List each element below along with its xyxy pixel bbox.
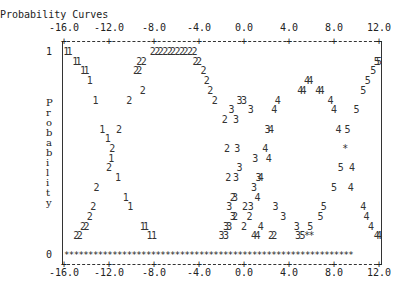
point-series-4: 4 [349, 163, 355, 173]
point-series-5: 5 [344, 125, 350, 135]
x-tick-mark: + [376, 259, 382, 270]
top-x-tick-label: 12.0 [367, 22, 391, 33]
point-series-2: 2 [109, 144, 115, 154]
point-series-5: 5 [370, 66, 376, 76]
top-x-tick-label: -4.0 [187, 22, 211, 33]
x-tick-mark: + [61, 259, 67, 270]
x-tick-mark: + [151, 259, 157, 270]
point-series-3: 3 [272, 202, 278, 212]
x-tick-mark: + [331, 259, 337, 270]
point-series-2: 2 [224, 144, 230, 154]
point-series-4: 4 [268, 125, 274, 135]
point-series-4: 4 [271, 105, 277, 115]
point-series-2: 2 [271, 231, 277, 241]
x-tick-mark: + [331, 36, 337, 47]
top-x-tick-label: 4.0 [280, 22, 298, 33]
point-series-4: 4 [254, 231, 260, 241]
point-series-2: 2 [106, 163, 112, 173]
top-x-tick-label: -8.0 [142, 22, 166, 33]
point-series-4: 4 [331, 105, 337, 115]
point-series-1: 1 [151, 231, 157, 241]
y-tick-0: 0 [46, 249, 52, 260]
x-tick-mark: + [196, 259, 202, 270]
top-x-tick-label: -12.0 [94, 22, 124, 33]
top-x-tick-label: 0.0 [235, 22, 253, 33]
top-x-tick-label: 8.0 [325, 22, 343, 33]
point-series-3: 3 [248, 105, 254, 115]
point-series-5: 5 [353, 105, 359, 115]
point-series-5: 5 [331, 183, 337, 193]
x-tick-mark: + [241, 259, 247, 270]
point-series-overlap: * [308, 231, 314, 241]
point-series-4: 4 [376, 231, 382, 241]
x-tick-mark: + [151, 36, 157, 47]
point-series-3: 3 [241, 96, 247, 106]
point-series-2: 2 [140, 86, 146, 96]
x-tick-mark: + [286, 259, 292, 270]
point-series-5: 5 [360, 86, 366, 96]
point-series-3: 3 [223, 222, 229, 232]
point-series-3: 3 [232, 193, 238, 203]
point-series-2: 2 [247, 212, 253, 222]
point-series-5: 5 [317, 212, 323, 222]
point-series-2: 2 [126, 96, 132, 106]
point-series-1: 1 [115, 173, 121, 183]
point-series-4: 4 [335, 125, 341, 135]
x-tick-mark: + [196, 36, 202, 47]
point-series-4: 4 [266, 154, 272, 164]
point-series-2: 2 [116, 125, 122, 135]
point-series-5: 5 [376, 57, 382, 67]
point-series-3: 3 [226, 202, 232, 212]
x-tick-mark: + [106, 36, 112, 47]
point-series-2: 2 [222, 115, 228, 125]
x-tick-mark: + [376, 36, 382, 47]
point-series-5: 5 [338, 163, 344, 173]
point-series-3: 3 [218, 231, 224, 241]
point-series-2: 2 [73, 231, 79, 241]
x-tick-mark: + [106, 259, 112, 270]
point-series-4: 4 [258, 173, 264, 183]
point-series-4: 4 [307, 76, 313, 86]
point-series-3: 3 [252, 154, 258, 164]
point-series-4: 4 [301, 86, 307, 96]
y-axis-label-char: y [46, 197, 52, 208]
point-series-3: 3 [234, 144, 240, 154]
point-series-3: 3 [280, 212, 286, 222]
point-series-overlap: * [342, 144, 348, 154]
point-series-4: 4 [348, 183, 354, 193]
point-series-4: 4 [319, 86, 325, 96]
point-series-3: 3 [248, 202, 254, 212]
point-series-1: 1 [127, 202, 133, 212]
point-series-3: 3 [233, 115, 239, 125]
top-x-tick-label: -16.0 [49, 22, 79, 33]
point-series-1: 1 [92, 96, 98, 106]
x-tick-mark: + [286, 36, 292, 47]
point-series-2: 2 [241, 222, 247, 232]
point-series-2: 2 [225, 173, 231, 183]
x-tick-mark: + [61, 36, 67, 47]
x-tick-mark: + [241, 36, 247, 47]
point-series-1: 1 [87, 76, 93, 86]
point-series-2: 2 [136, 66, 142, 76]
y-tick-1: 1 [46, 46, 52, 57]
left-y-axis [62, 41, 63, 264]
baseline-overlap-stars: ****************************************… [64, 250, 380, 260]
chart-title: Probability Curves [0, 9, 108, 20]
point-series-3: 3 [233, 173, 239, 183]
point-series-4: 4 [254, 193, 260, 203]
point-series-2: 2 [94, 183, 100, 193]
point-series-2: 2 [212, 96, 218, 106]
